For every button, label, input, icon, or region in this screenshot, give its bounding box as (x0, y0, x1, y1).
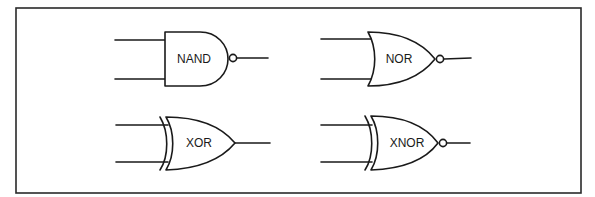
nor-inversion-bubble-icon (436, 55, 443, 62)
xor-gate: XOR (116, 117, 270, 170)
nor-label: NOR (386, 52, 413, 66)
xnor-gate: XNOR (321, 116, 470, 170)
nand-inversion-bubble-icon (229, 54, 236, 61)
nand-label: NAND (177, 52, 211, 66)
nor-gate: NOR (321, 32, 471, 86)
nor-output (444, 58, 471, 59)
nand-gate: NAND (115, 32, 268, 86)
xnor-label: XNOR (390, 136, 425, 150)
figure-frame (16, 8, 581, 193)
xnor-inversion-bubble-icon (439, 139, 446, 146)
xor-label: XOR (186, 136, 212, 150)
logic-gates-diagram: NAND NOR XOR XNOR (0, 0, 595, 197)
